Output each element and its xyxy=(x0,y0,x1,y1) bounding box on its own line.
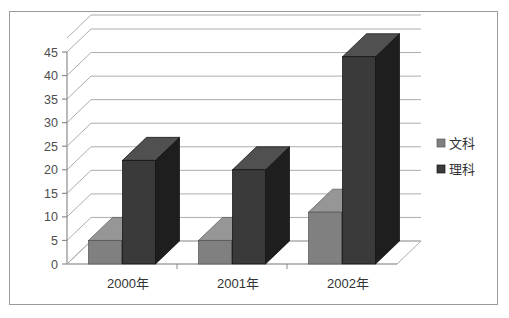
y-axis-tick-label: 15 xyxy=(44,187,58,201)
bar-front-face xyxy=(89,240,122,264)
x-axis-category-labels: 2000年2001年2002年 xyxy=(107,276,369,291)
y-axis-tick-labels: 051015202530354045 xyxy=(44,46,58,272)
bar-front-face xyxy=(343,57,376,264)
legend-label-文科: 文科 xyxy=(449,136,475,151)
chart-frame: 051015202530354045 2000年2001年2002年 文科理科 xyxy=(9,11,498,305)
legend-marker-文科 xyxy=(437,139,445,147)
legend-marker-理科 xyxy=(437,165,445,173)
y-axis-tick-label: 35 xyxy=(44,93,58,107)
bar-2002年-理科 xyxy=(343,34,400,264)
x-axis-category-label: 2002年 xyxy=(327,276,369,291)
bar-2001年-理科 xyxy=(233,147,290,264)
y-axis-tick-label: 20 xyxy=(44,163,58,177)
bar-2000年-理科 xyxy=(123,137,180,264)
bar-chart-3d: 051015202530354045 2000年2001年2002年 文科理科 xyxy=(10,12,497,304)
y-axis-tick-label: 0 xyxy=(51,258,58,272)
legend-label-理科: 理科 xyxy=(449,162,475,177)
y-axis-tick-label: 40 xyxy=(44,69,58,83)
bar-front-face xyxy=(309,212,342,264)
bars xyxy=(89,34,400,264)
x-axis-category-label: 2001年 xyxy=(217,276,259,291)
y-axis-ticks xyxy=(62,52,67,264)
y-axis-tick-label: 10 xyxy=(44,210,58,224)
x-axis-category-label: 2000年 xyxy=(107,276,149,291)
y-axis-tick-label: 25 xyxy=(44,140,58,154)
y-axis-tick-label: 45 xyxy=(44,46,58,60)
bar-front-face xyxy=(233,170,266,264)
y-axis-tick-label: 5 xyxy=(51,234,58,248)
y-axis-tick-label: 30 xyxy=(44,116,58,130)
legend: 文科理科 xyxy=(437,136,475,177)
bar-front-face xyxy=(199,240,232,264)
bar-side-face xyxy=(376,34,400,264)
bar-front-face xyxy=(123,160,156,264)
category-dividers xyxy=(177,264,287,269)
